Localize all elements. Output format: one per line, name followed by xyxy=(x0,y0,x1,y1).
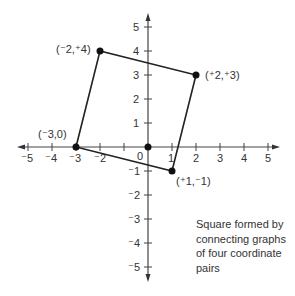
y-axis-down-arrow-icon xyxy=(146,274,151,282)
y-tick-label: ⁻3 xyxy=(128,213,140,226)
point-1-neg1 xyxy=(169,168,176,175)
y-tick-label: 2 xyxy=(133,93,139,105)
x-tick-label: 4 xyxy=(241,152,247,164)
x-tick-label: ⁻3 xyxy=(69,152,81,165)
x-tick-label: ⁻4 xyxy=(45,152,57,165)
point-neg2-4 xyxy=(97,48,104,55)
y-tick-label: 1 xyxy=(133,117,139,129)
x-tick-label: 2 xyxy=(193,152,199,164)
origin-point xyxy=(145,144,152,151)
diagram-caption: Square formed by connecting graphs of fo… xyxy=(196,217,295,275)
point-label-2-3: (⁺2,⁺3) xyxy=(205,69,240,82)
point-label-1-neg1: (⁺1,⁻1) xyxy=(176,175,211,188)
x-tick-label: 3 xyxy=(217,152,223,164)
y-tick-label: ⁻2 xyxy=(128,189,140,202)
y-tick-label: 5 xyxy=(133,21,139,33)
point-label-neg2-4: (⁻2,⁺4) xyxy=(56,43,91,56)
x-axis-right-arrow-icon xyxy=(272,145,280,150)
point-2-3 xyxy=(193,72,200,79)
point-neg3-0 xyxy=(73,144,80,151)
y-tick-label: 3 xyxy=(133,69,139,81)
y-tick-label: 4 xyxy=(133,45,139,57)
x-tick-label: 1 xyxy=(168,152,174,164)
x-tick-label: 5 xyxy=(265,152,271,164)
point-label-neg3-0: (⁻3,0) xyxy=(38,128,67,141)
x-tick-label: ⁻5 xyxy=(21,152,33,165)
origin-label: 0 xyxy=(137,150,143,162)
y-tick-label: ⁻1 xyxy=(128,165,140,178)
x-axis-left-arrow-icon xyxy=(17,145,25,150)
y-axis-up-arrow-icon xyxy=(146,13,151,21)
x-tick-label: ⁻2 xyxy=(94,152,106,165)
y-tick-label: ⁻5 xyxy=(128,261,140,274)
y-tick-label: ⁻4 xyxy=(128,237,140,250)
